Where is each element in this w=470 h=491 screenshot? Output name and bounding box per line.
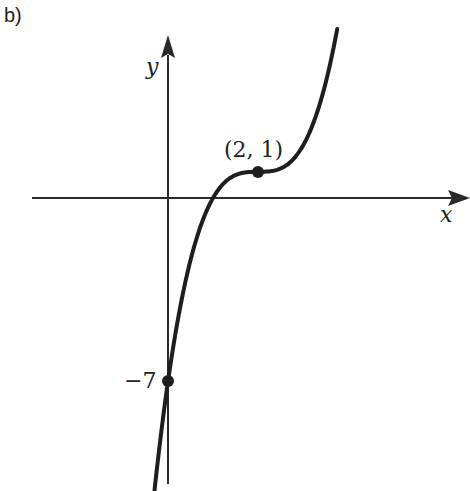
x-axis <box>32 190 470 206</box>
y-axis-label: y <box>145 54 159 79</box>
y-intercept-label: −7 <box>124 368 156 393</box>
x-axis-label: x <box>440 202 453 227</box>
y-axis-arrow-icon <box>161 35 175 58</box>
y-intercept-dot <box>162 375 174 387</box>
graph: (2, 1) −7 x y <box>0 0 470 491</box>
point-label: (2, 1) <box>224 137 283 162</box>
function-curve <box>155 29 338 491</box>
point-2-1-dot <box>252 166 264 178</box>
